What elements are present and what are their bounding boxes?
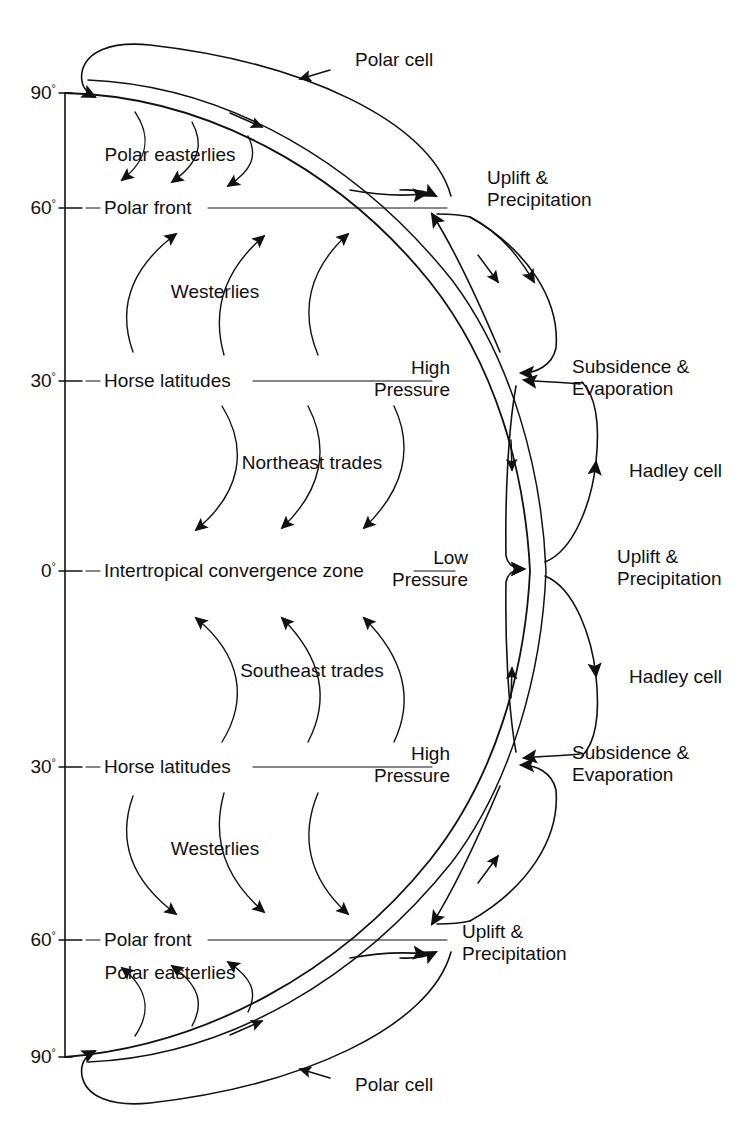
label-polar-cell-north: Polar cell — [355, 49, 433, 71]
subsidence-north-line2: Evaporation — [572, 378, 673, 399]
lat-tick-30n: 30° — [0, 370, 56, 392]
lat-tick-60s: 60° — [0, 929, 56, 951]
uplift-south-line1: Uplift & — [462, 921, 523, 942]
hadley-cell-south-flow — [506, 569, 598, 758]
uplift-flow-north — [470, 217, 534, 282]
label-uplift-precipitation-north: Uplift & Precipitation — [487, 167, 592, 211]
lat-tick-0: 0° — [0, 560, 56, 582]
label-polar-cell-south: Polar cell — [355, 1074, 433, 1096]
boundary-itcz: Intertropical convergence zone — [104, 560, 364, 582]
boundary-horse-latitudes-south: Horse latitudes — [104, 756, 231, 778]
label-hadley-cell-south: Hadley cell — [629, 666, 722, 688]
boundary-horse-latitudes-north: Horse latitudes — [104, 370, 231, 392]
low-pressure-line2: Pressure — [392, 569, 468, 590]
label-high-pressure-north: High Pressure — [330, 357, 450, 401]
lat-tick-60n: 60° — [0, 197, 56, 219]
label-northeast-trades: Northeast trades — [212, 452, 412, 474]
lat-tick-90s: 90° — [0, 1046, 56, 1068]
high-pressure-north-line1: High — [411, 357, 450, 378]
uplift-eq-line2: Precipitation — [617, 568, 722, 589]
subsidence-south-line1: Subsidence & — [572, 742, 689, 763]
label-westerlies-south: Westerlies — [135, 838, 295, 860]
low-pressure-line1: Low — [433, 547, 468, 568]
high-pressure-south-line1: High — [411, 743, 450, 764]
label-subsidence-evaporation-north: Subsidence & Evaporation — [572, 356, 689, 400]
uplift-south-line2: Precipitation — [462, 943, 567, 964]
latitude-axis-line — [59, 93, 82, 1057]
uplift-eq-line1: Uplift & — [617, 546, 678, 567]
atmospheric-circulation-diagram: 90° 60° 30° 0° 30° 60° 90° Polar front H… — [0, 0, 755, 1139]
label-uplift-precipitation-equator: Uplift & Precipitation — [617, 546, 722, 590]
label-subsidence-evaporation-south: Subsidence & Evaporation — [572, 742, 689, 786]
label-hadley-cell-north: Hadley cell — [629, 460, 722, 482]
lat-tick-90n: 90° — [0, 82, 56, 104]
high-pressure-south-line2: Pressure — [374, 765, 450, 786]
label-southeast-trades: Southeast trades — [212, 660, 412, 682]
subsidence-south-line2: Evaporation — [572, 764, 673, 785]
label-polar-easterlies-north: Polar easterlies — [70, 144, 270, 166]
label-westerlies-north: Westerlies — [135, 281, 295, 303]
uplift-north-line2: Precipitation — [487, 189, 592, 210]
high-pressure-north-line2: Pressure — [374, 379, 450, 400]
label-low-pressure-equator: Low Pressure — [348, 547, 468, 591]
boundary-polar-front-north: Polar front — [104, 197, 192, 219]
label-high-pressure-south: High Pressure — [330, 743, 450, 787]
label-uplift-precipitation-south: Uplift & Precipitation — [462, 921, 567, 965]
label-polar-easterlies-south: Polar easterlies — [70, 962, 270, 984]
boundary-polar-front-south: Polar front — [104, 929, 192, 951]
ferrel-cell-south-flow — [432, 765, 556, 924]
uplift-flow-south — [470, 856, 534, 921]
lat-tick-30s: 30° — [0, 756, 56, 778]
hadley-cell-north-flow — [506, 380, 598, 569]
uplift-north-line1: Uplift & — [487, 167, 548, 188]
subsidence-north-line1: Subsidence & — [572, 356, 689, 377]
